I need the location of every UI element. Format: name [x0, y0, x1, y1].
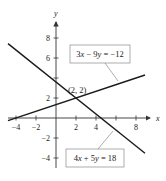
- equation-label-1: 3x − 9y = −12: [76, 49, 123, 59]
- leader-line-eq1: [105, 63, 118, 81]
- x-tick-label: −2: [32, 123, 41, 132]
- y-tick-label: 8: [46, 34, 50, 43]
- y-tick-label: −4: [41, 154, 50, 163]
- x-tick-label: 8: [134, 123, 138, 132]
- y-tick-label: −2: [41, 134, 50, 143]
- x-tick-label: 2: [74, 123, 78, 132]
- x-tick-label: −4: [12, 123, 21, 132]
- y-axis-label: y: [53, 9, 58, 18]
- chart-plot: −4 −2 2 4 8 8 6 2 −2 −4 x y (2, 2) 3x − …: [0, 0, 166, 181]
- y-tick-label: 6: [46, 54, 50, 63]
- leader-line-eq2: [98, 131, 113, 149]
- x-tick-label: 4: [94, 123, 98, 132]
- intersection-label: (2, 2): [68, 85, 87, 95]
- y-tick-label: 2: [46, 94, 50, 103]
- equation-label-2: 4x + 5y = 18: [74, 153, 117, 163]
- x-axis-label: x: [155, 114, 160, 123]
